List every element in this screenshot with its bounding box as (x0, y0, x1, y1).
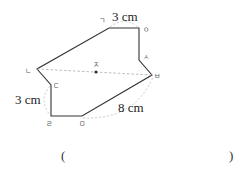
answer-open-paren: ( (61, 148, 65, 164)
center-point (94, 70, 97, 73)
vertex-label-bieup: ㅂ (154, 72, 160, 80)
answer-close-paren: ) (229, 148, 233, 164)
answer-blank[interactable] (70, 148, 220, 164)
measure-top: 3 cm (112, 9, 138, 24)
vertex-label-ieung: ㅇ (143, 26, 149, 34)
measure-arc-left (44, 86, 50, 115)
vertex-label-mieum: ㅁ (79, 120, 85, 128)
measure-left: 3 cm (15, 92, 41, 107)
vertex-label-giyeok: ㄱ (99, 17, 105, 25)
vertex-label-digeut: ㄷ (53, 82, 59, 90)
center-label: ㅈ (93, 61, 99, 69)
vertex-label-siot: ㅅ (143, 53, 149, 61)
vertex-label-nieun: ㄴ (25, 67, 31, 75)
vertex-label-rieul: ㄹ (46, 120, 52, 128)
measure-bottom-right: 8 cm (118, 100, 144, 115)
